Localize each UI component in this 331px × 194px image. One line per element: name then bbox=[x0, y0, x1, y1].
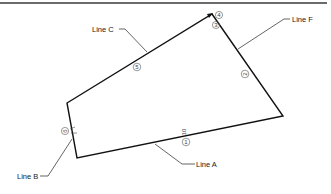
marker-6: 6 bbox=[61, 127, 68, 134]
line-a-label: Line A bbox=[196, 160, 217, 169]
svg-text:1: 1 bbox=[184, 139, 188, 145]
line-c-label: Line C bbox=[92, 25, 114, 34]
svg-text:5: 5 bbox=[135, 64, 139, 70]
line-a-callout: Line A bbox=[155, 144, 217, 169]
marker-5: 5 bbox=[133, 63, 141, 71]
svg-text:2: 2 bbox=[242, 72, 248, 76]
marker-2: 2 bbox=[241, 70, 249, 78]
line-b-label: Line B bbox=[17, 172, 38, 181]
svg-text:4: 4 bbox=[217, 12, 221, 18]
quadrilateral-shape bbox=[67, 14, 283, 158]
line-f-callout: Line F bbox=[238, 15, 313, 49]
line-b-callout: Line B bbox=[17, 139, 72, 181]
marker-4: 4 bbox=[215, 11, 222, 18]
marker-1: 1 bbox=[182, 138, 190, 146]
diagram-canvas: Line C Line F Line A Line B 4 3 5 2 1 6 bbox=[0, 0, 331, 194]
line-c-callout: Line C bbox=[92, 25, 147, 52]
marker-3: 3 bbox=[212, 21, 219, 28]
svg-text:6: 6 bbox=[62, 129, 68, 133]
dimension-10-label: 10 bbox=[181, 128, 187, 135]
line-f-label: Line F bbox=[292, 15, 313, 24]
